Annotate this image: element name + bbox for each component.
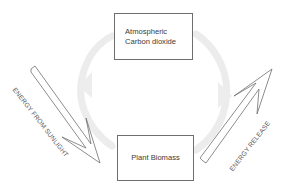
plant-biomass-box: Plant Biomass bbox=[117, 135, 194, 181]
cycle-arrowheads bbox=[78, 72, 232, 108]
plant-biomass-label: Plant Biomass bbox=[131, 153, 180, 163]
label-line-2: Carbon dioxide bbox=[125, 37, 176, 47]
label-line-1: Atmospheric bbox=[125, 27, 176, 37]
atmospheric-carbon-dioxide-label: Atmospheric Carbon dioxide bbox=[125, 27, 176, 47]
energy-release-arrow bbox=[200, 69, 272, 163]
atmospheric-carbon-dioxide-box: Atmospheric Carbon dioxide bbox=[114, 13, 193, 60]
